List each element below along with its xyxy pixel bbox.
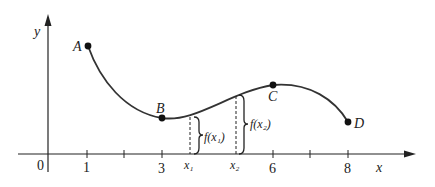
function-graph: y x 0 1 3 x₁ x₂ 6 8 f(x₁) f(x₂) A B C D [0, 0, 435, 187]
function-curve [88, 46, 348, 122]
point-c [270, 82, 277, 89]
label-a: A [72, 39, 82, 54]
tick-label-1: 1 [83, 160, 90, 175]
x-axis-label: x [375, 160, 383, 175]
y-axis-arrow-icon [45, 14, 52, 26]
brace-f-x2-icon [239, 95, 248, 154]
brace-f-x1-icon [194, 117, 203, 154]
label-b: B [156, 101, 165, 116]
origin-label: 0 [37, 158, 44, 173]
tick-label-3: 3 [158, 161, 165, 176]
point-d [345, 119, 352, 126]
tick-label-x2: x₂ [229, 158, 240, 172]
annotation-f-x2: f(x₂) [250, 117, 271, 131]
tick-label-8: 8 [344, 161, 351, 176]
tick-label-6: 6 [269, 161, 276, 176]
x-axis-arrow-icon [404, 151, 416, 158]
label-c: C [268, 89, 278, 104]
label-d: D [353, 116, 364, 131]
point-a [85, 43, 92, 50]
y-axis-label: y [32, 24, 41, 39]
annotation-f-x1: f(x₁) [204, 130, 225, 144]
tick-label-x1: x₁ [183, 158, 194, 172]
